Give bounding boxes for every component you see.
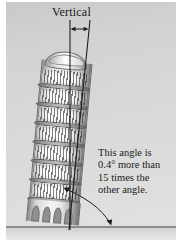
angle-annotation-text: This angle is 0.4° more than 15 times th…	[98, 147, 176, 197]
annotation-line-1: This angle is	[98, 147, 176, 159]
top-gap-arrow	[71, 27, 89, 31]
vertical-label: Vertical	[52, 5, 91, 20]
illustration-panel: Vertical This angle is 0.4° more than 15…	[6, 2, 176, 240]
figure-container: Vertical This angle is 0.4° more than 15…	[0, 0, 182, 245]
annotation-line-2: 0.4° more than	[98, 159, 176, 171]
annotation-line-4: other angle.	[98, 184, 176, 196]
geometry-overlay	[6, 2, 176, 240]
annotation-line-3: 15 times the	[98, 172, 176, 184]
tower-axis-line	[69, 20, 90, 230]
